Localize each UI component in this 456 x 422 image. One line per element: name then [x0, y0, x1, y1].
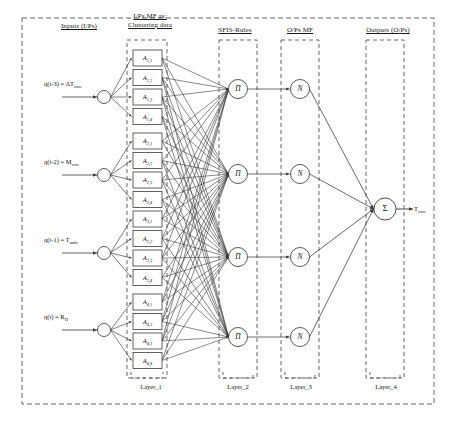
layer-boxes: [127, 40, 404, 378]
output-label: Tcow: [414, 205, 426, 214]
edge-input-mf: [111, 239, 132, 254]
edge-mf-rule: [162, 180, 229, 337]
mf-label-1-3: A1,3: [133, 92, 162, 105]
input-node-in2: [98, 169, 111, 182]
input-arrows: [62, 97, 97, 330]
norm-nodes: [291, 80, 310, 347]
rule-nodes: [229, 80, 248, 347]
header-rules: SFIS-Rules: [206, 26, 264, 35]
edges-input-to-mf: [111, 58, 132, 361]
edge-input-mf: [111, 253, 132, 258]
input-label-in1: q(t-3) = ΔTcow: [44, 80, 82, 89]
header-line: I/Ps MF as:: [114, 12, 186, 21]
edge-mf-rule: [162, 174, 229, 361]
mf-label-1-1: A1,1: [133, 53, 162, 66]
rule-node-symbol-rule1: Π: [230, 84, 246, 94]
layer-label: Layer_1: [128, 383, 174, 390]
layer-label-ticks: [131, 372, 400, 378]
mf-label-2-2: A2,2: [133, 156, 162, 169]
edge-input-mf: [111, 253, 132, 278]
edge-mf-rule: [162, 141, 229, 174]
mf-label-1-4: A1,4: [133, 112, 162, 125]
mf-label-4-4: A4,4: [133, 356, 162, 369]
norm-node-symbol-norm3: N: [292, 252, 308, 262]
sum-node-symbol: Σ: [377, 203, 393, 213]
header-line: O/Ps MF: [272, 26, 328, 35]
edge-mf-rule: [162, 257, 229, 361]
mf-label-3-2: A3,2: [133, 234, 162, 247]
edges-rules-to-norm: [248, 89, 290, 337]
mf-label-3-4: A3,4: [133, 273, 162, 286]
mf-label-3-3: A3,3: [133, 253, 162, 266]
layer-label: Layer_2: [215, 383, 261, 390]
rule-node-symbol-rule2: Π: [230, 169, 246, 179]
header-line: Inputs (I/Ps): [40, 22, 118, 31]
input-node-in1: [98, 91, 111, 104]
edge-input-mf: [111, 175, 132, 180]
header-line: Clustering data: [114, 21, 186, 30]
edge-mf-rule: [162, 89, 229, 180]
edge-mf-rule: [162, 322, 229, 338]
input-node-in3: [98, 247, 111, 260]
edge-mf-rule: [162, 174, 229, 302]
edge-input-mf: [111, 78, 132, 98]
header-outputs: Outputs (O/Ps): [352, 26, 424, 35]
layer-label: Layer_3: [278, 383, 324, 390]
mf-label-4-3: A4,3: [133, 336, 162, 349]
norm-node-symbol-norm1: N: [292, 84, 308, 94]
input-label-in4: q(t) = RH: [44, 313, 68, 322]
edge-mf-rule: [162, 239, 229, 338]
edge-mf-rule: [162, 89, 229, 97]
input-node-in4: [98, 324, 111, 337]
input-label-in3: q(t-1) = Tamb: [44, 236, 78, 245]
mf-label-2-3: A2,3: [133, 175, 162, 188]
edge-mf-rule: [162, 257, 229, 302]
header-line: SFIS-Rules: [206, 26, 264, 35]
mf-label-4-2: A4,2: [133, 317, 162, 330]
header-ipsmf: I/Ps MF as:Clustering data: [114, 12, 186, 30]
edge-input-mf: [111, 330, 132, 361]
layer-label: Layer_4: [363, 383, 409, 390]
header-opsmf: O/Ps MF: [272, 26, 328, 35]
edge-mf-rule: [162, 58, 229, 89]
edge-input-mf: [111, 219, 132, 253]
mf-label-3-1: A3,1: [133, 214, 162, 227]
edge-input-mf: [111, 175, 132, 200]
header-inputs: Inputs (I/Ps): [40, 22, 118, 31]
edge-input-mf: [111, 97, 132, 117]
edge-input-mf: [111, 330, 132, 341]
edge-input-mf: [111, 161, 132, 176]
mf-label-4-1: A4,1: [133, 297, 162, 310]
edge-mf-rule: [162, 89, 229, 322]
mf-label-1-2: A1,2: [133, 73, 162, 86]
edges-mf-to-rules: [162, 58, 229, 361]
rule-node-symbol-rule3: Π: [230, 252, 246, 262]
edge-input-mf: [111, 58, 132, 97]
edge-norm-sum: [310, 209, 374, 257]
input-nodes: [98, 91, 111, 337]
norm-node-symbol-norm4: N: [292, 332, 308, 342]
header-line: Outputs (O/Ps): [352, 26, 424, 35]
figure-canvas: Inputs (I/Ps)I/Ps MF as:Clustering dataS…: [0, 0, 456, 422]
edge-input-mf: [111, 141, 132, 175]
rule-node-symbol-rule4: Π: [230, 332, 246, 342]
input-label-in2: q(t-2) = Mcow: [44, 158, 79, 167]
mf-label-2-4: A2,4: [133, 195, 162, 208]
norm-node-symbol-norm2: N: [292, 169, 308, 179]
mf-label-2-1: A2,1: [133, 136, 162, 149]
edge-mf-rule: [162, 174, 229, 278]
